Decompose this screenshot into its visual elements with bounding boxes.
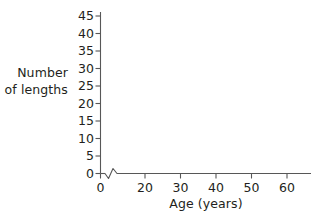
y-tick-label-30: 30 [68,63,94,76]
chart-figure: Number of lengths [0,0,315,221]
y-tick-label-5: 5 [68,150,94,163]
y-axis-ticks [96,16,101,174]
y-tick-label-35: 35 [68,45,94,58]
x-tick-label-20: 20 [132,182,158,195]
y-tick-label-0: 0 [68,168,94,181]
y-tick-label-20: 20 [68,98,94,111]
y-tick-label-25: 25 [68,80,94,93]
y-tick-label-15: 15 [68,115,94,128]
x-tick-label-30: 30 [168,182,194,195]
x-tick-label-40: 40 [203,182,229,195]
x-tick-label-50: 50 [239,182,265,195]
x-tick-label-60: 60 [274,182,300,195]
y-tick-label-40: 40 [68,28,94,41]
x-tick-label-0: 0 [88,182,114,195]
x-axis-title: Age (years) [100,196,312,211]
y-tick-label-10: 10 [68,133,94,146]
x-axis-break-zigzag-icon [105,169,117,179]
y-tick-label-45: 45 [68,10,94,23]
x-axis-ticks [101,174,288,179]
